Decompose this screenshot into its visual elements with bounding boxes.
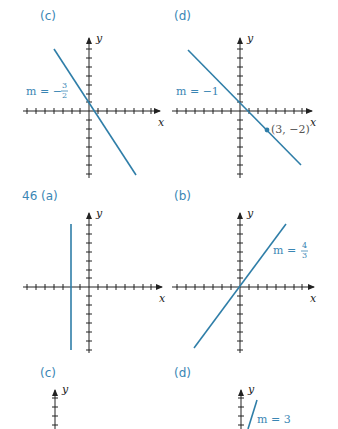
line-slope-3 — [248, 400, 257, 429]
x-axis-label: x — [158, 116, 165, 129]
slope-den: 3 — [302, 251, 307, 260]
x-axis-label: x — [310, 292, 317, 305]
point-3-neg2 — [265, 128, 270, 133]
graph-top-c: y x m = − 3 2 — [23, 32, 165, 178]
graph-bottom-d: y m = 3 — [238, 383, 291, 429]
y-axis-label: y — [247, 383, 255, 396]
graph-top-d: y x (3, −2) m = −1 — [172, 32, 317, 178]
y-axis-label: y — [61, 383, 69, 396]
y-axis-label: y — [246, 207, 254, 220]
slope-label: m = 3 — [257, 413, 291, 426]
slope-num: 4 — [302, 241, 307, 250]
point-label: (3, −2) — [271, 123, 310, 136]
slope-den: 2 — [62, 91, 67, 100]
slope-label: m = − — [26, 85, 62, 98]
slope-label: m = −1 — [176, 85, 219, 98]
line-slope-neg-1 — [188, 50, 301, 165]
x-axis-label: x — [310, 116, 317, 129]
x-axis-label: x — [159, 292, 166, 305]
y-axis-label: y — [95, 32, 103, 45]
graph-mid-b: y x m = 4 3 — [172, 207, 317, 353]
y-axis-label: y — [246, 32, 254, 45]
graph-46-a: y x — [23, 207, 166, 353]
slope-num: 3 — [62, 81, 67, 90]
graph-bottom-c: y — [52, 383, 69, 429]
graphs-canvas: y x m = − 3 2 y x (3, −2) m = −1 — [0, 0, 338, 429]
line-slope-neg-3-2 — [54, 49, 136, 175]
y-axis-label: y — [95, 207, 103, 220]
slope-label: m = — [273, 244, 296, 257]
